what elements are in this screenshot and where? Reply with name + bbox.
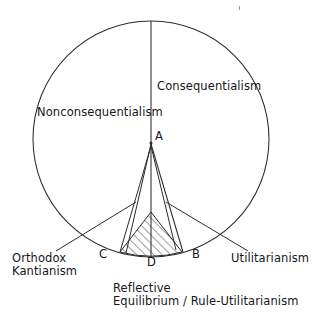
point-a-marker (150, 142, 153, 145)
point-label-c: C (99, 248, 107, 261)
leader-line-utilitarianism (166, 202, 248, 251)
label-orthodox-kantianism-line2: Kantianism (12, 264, 77, 278)
label-reflective-equilibrium-caption: ReflectiveEquilibrium / Rule-Utilitarian… (113, 282, 299, 308)
label-utilitarianism: Utilitarianism (231, 252, 309, 265)
ethics-circle-diagram (0, 0, 317, 329)
point-label-a: A (155, 130, 163, 143)
point-label-b: B (192, 248, 200, 261)
caption-line2: Equilibrium / Rule-Utilitarianism (113, 294, 299, 308)
point-label-d: D (147, 256, 156, 269)
label-consequentialism: Consequentialism (157, 80, 261, 93)
label-orthodox-kantianism: OrthodoxKantianism (12, 252, 77, 278)
caption-line1: Reflective (113, 281, 171, 295)
label-orthodox-kantianism-line1: Orthodox (12, 251, 66, 265)
label-nonconsequentialism: Nonconsequentialism (37, 106, 163, 119)
